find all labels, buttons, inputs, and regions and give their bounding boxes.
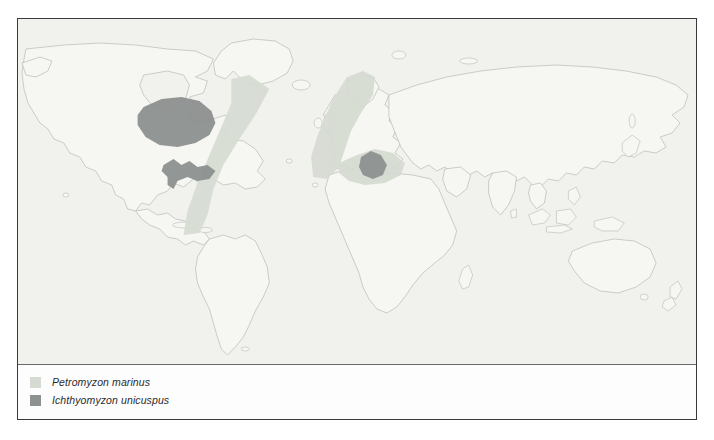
legend-label-petromyzon: Petromyzon marinus [52, 376, 150, 388]
legend-swatch-ichthyomyzon [30, 395, 41, 406]
island-svalbard [392, 51, 406, 59]
island-ireland [314, 118, 322, 128]
legend-label-ichthyomyzon: Ichthyomyzon unicuspus [52, 394, 169, 406]
island-novaya-zemlya [460, 58, 478, 64]
world-map: .land { fill:#f6f6f3; stroke:#b9bab4; st… [18, 19, 696, 364]
island-azores [286, 159, 292, 163]
island-tasmania [640, 294, 648, 300]
map-svg: .land { fill:#f6f6f3; stroke:#b9bab4; st… [18, 19, 696, 364]
legend-panel: Petromyzon marinus Ichthyomyzon unicuspu… [18, 364, 696, 419]
island-iceland [292, 80, 310, 90]
figure-page: .land { fill:#f6f6f3; stroke:#b9bab4; st… [0, 0, 714, 440]
figure-frame: .land { fill:#f6f6f3; stroke:#b9bab4; st… [17, 18, 697, 420]
legend-swatch-petromyzon [30, 377, 41, 388]
legend-item-petromyzon: Petromyzon marinus [30, 375, 150, 389]
island-canaries [312, 183, 318, 187]
island-sakhalin [629, 114, 635, 128]
island-falklands [241, 347, 249, 351]
legend-item-ichthyomyzon: Ichthyomyzon unicuspus [30, 393, 169, 407]
island-hawaii [63, 193, 69, 197]
